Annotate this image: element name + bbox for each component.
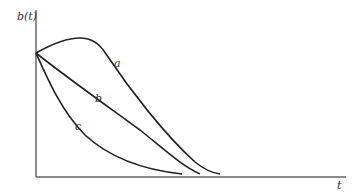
curve-b-label: b — [95, 92, 102, 105]
curve-c — [36, 53, 182, 174]
y-axis-label: b(t) — [17, 10, 37, 23]
curve-c-label: c — [75, 120, 81, 133]
chart: b(t) t a b c — [0, 0, 361, 195]
x-axis-label: t — [337, 179, 342, 192]
curve-a-label: a — [114, 57, 121, 70]
curve-a — [36, 38, 220, 174]
